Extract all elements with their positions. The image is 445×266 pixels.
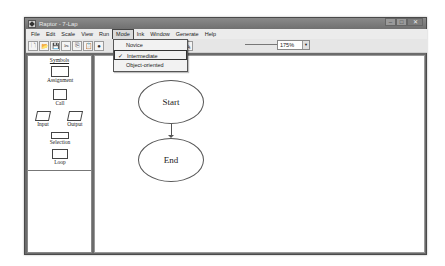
new-file-icon: 🗋 bbox=[31, 41, 36, 51]
mode-option-intermediate[interactable]: ✓ Intermediate bbox=[114, 50, 187, 60]
scissors-icon: ✂ bbox=[64, 42, 69, 49]
window-controls: – □ ✕ bbox=[385, 18, 423, 26]
symbol-output[interactable]: Output bbox=[63, 111, 87, 127]
symbol-label: Input bbox=[31, 121, 55, 127]
window-title: Raptor - 7-Lap bbox=[39, 21, 78, 27]
start-node[interactable]: Start bbox=[138, 80, 204, 124]
mode-option-novice[interactable]: Novice bbox=[114, 40, 187, 50]
menu-run[interactable]: Run bbox=[96, 30, 112, 39]
paste-button[interactable]: 📋 bbox=[83, 41, 93, 51]
menu-file[interactable]: File bbox=[28, 30, 43, 39]
menu-generate[interactable]: Generate bbox=[173, 30, 202, 39]
palette-divider bbox=[28, 170, 91, 171]
zoom-value: 175% bbox=[278, 42, 302, 48]
loop-shape-icon bbox=[52, 149, 68, 159]
menu-scale[interactable]: Scale bbox=[58, 30, 78, 39]
menu-window[interactable]: Window bbox=[147, 30, 173, 39]
menu-bar: File Edit Scale View Run Mode Ink Window… bbox=[26, 29, 427, 39]
open-folder-icon: 📂 bbox=[41, 42, 48, 49]
output-shape-icon bbox=[67, 111, 83, 121]
symbols-palette: Symbols Assignment Call Input Output Sel… bbox=[27, 55, 92, 253]
palette-header: Symbols bbox=[28, 56, 91, 63]
mode-option-label: Object-oriented bbox=[126, 62, 164, 68]
save-icon: 💾 bbox=[52, 42, 59, 49]
run-icon: ● bbox=[97, 43, 101, 49]
symbol-assignment[interactable]: Assignment bbox=[47, 66, 73, 83]
end-label: End bbox=[164, 155, 179, 165]
toolbar: 🗋 📂 💾 ✂ ⎘ 📋 ● ⊣ ✎ bbox=[26, 39, 427, 53]
run-button[interactable]: ● bbox=[94, 41, 104, 51]
mode-option-label: Intermediate bbox=[127, 53, 158, 59]
raptor-app-icon bbox=[28, 20, 36, 28]
paste-icon: 📋 bbox=[85, 42, 92, 49]
copy-button[interactable]: ⎘ bbox=[72, 41, 82, 51]
menu-mode[interactable]: Mode bbox=[112, 29, 134, 40]
close-button[interactable]: ✕ bbox=[407, 18, 423, 26]
mode-option-label: Novice bbox=[126, 42, 143, 48]
end-node[interactable]: End bbox=[138, 138, 204, 182]
menu-ink[interactable]: Ink bbox=[134, 30, 147, 39]
minimize-button[interactable]: – bbox=[385, 18, 396, 26]
menu-help[interactable]: Help bbox=[202, 30, 219, 39]
title-bar[interactable]: Raptor - 7-Lap – □ ✕ bbox=[25, 18, 426, 29]
chevron-down-icon[interactable]: ▼ bbox=[302, 41, 309, 49]
save-button[interactable]: 💾 bbox=[50, 41, 60, 51]
mode-dropdown-menu: Novice ✓ Intermediate Object-oriented bbox=[113, 39, 188, 72]
maximize-button[interactable]: □ bbox=[396, 18, 407, 26]
symbol-input[interactable]: Input bbox=[31, 111, 55, 127]
symbol-loop[interactable]: Loop bbox=[47, 149, 73, 165]
symbol-label: Output bbox=[63, 121, 87, 127]
input-shape-icon bbox=[35, 111, 51, 121]
symbol-label: Assignment bbox=[47, 77, 73, 83]
mode-option-object-oriented[interactable]: Object-oriented bbox=[114, 60, 187, 70]
symbol-call[interactable]: Call bbox=[49, 89, 71, 106]
raptor-window: Raptor - 7-Lap – □ ✕ File Edit Scale Vie… bbox=[24, 17, 427, 255]
symbol-label: Call bbox=[49, 100, 71, 106]
call-shape-icon bbox=[53, 89, 67, 100]
symbol-selection[interactable]: Selection bbox=[45, 132, 75, 145]
selection-shape-icon bbox=[51, 132, 69, 139]
open-file-button[interactable]: 📂 bbox=[39, 41, 49, 51]
symbol-label: Selection bbox=[45, 139, 75, 145]
flowchart-canvas[interactable]: Start End bbox=[94, 55, 425, 253]
menu-view[interactable]: View bbox=[78, 30, 96, 39]
new-file-button[interactable]: 🗋 bbox=[28, 41, 38, 51]
cut-button[interactable]: ✂ bbox=[61, 41, 71, 51]
start-label: Start bbox=[163, 97, 180, 107]
menu-edit[interactable]: Edit bbox=[43, 30, 58, 39]
copy-icon: ⎘ bbox=[75, 42, 80, 49]
symbol-label: Loop bbox=[47, 159, 73, 165]
zoom-select[interactable]: 175% ▼ bbox=[277, 40, 310, 50]
assignment-shape-icon bbox=[51, 66, 69, 77]
